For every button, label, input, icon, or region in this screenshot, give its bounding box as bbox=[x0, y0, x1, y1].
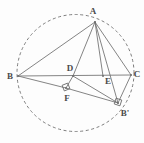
vertex-label-F: F bbox=[64, 94, 70, 103]
circumcircle-layer bbox=[17, 15, 134, 132]
right-angle-mark-layer bbox=[62, 83, 122, 106]
vertex-label-A: A bbox=[90, 7, 97, 16]
segment-A-C bbox=[95, 22, 131, 75]
circumcircle bbox=[17, 15, 134, 132]
segment-F-Bp bbox=[66, 88, 118, 103]
segment-B-A bbox=[18, 22, 95, 76]
vertex-dot-D bbox=[72, 75, 74, 77]
vertex-label-D: D bbox=[67, 64, 74, 73]
vertex-dot-F bbox=[65, 87, 67, 89]
segment-D-F bbox=[66, 76, 73, 88]
vertex-dot-E bbox=[102, 75, 104, 77]
vertex-dot-A bbox=[94, 21, 96, 23]
vertex-label-E: E bbox=[105, 77, 111, 86]
segment-layer bbox=[18, 22, 131, 103]
vertex-dot-C bbox=[130, 74, 132, 76]
segment-A-E bbox=[95, 22, 103, 76]
geometry-figure: ABCDEFB' bbox=[0, 0, 144, 143]
segment-B-F bbox=[18, 76, 66, 88]
vertex-label-B: B bbox=[7, 72, 13, 81]
segment-C-Bp bbox=[118, 75, 131, 103]
vertex-dot-B bbox=[17, 75, 19, 77]
vertex-label-C: C bbox=[134, 70, 141, 79]
vertex-label-Bp: B' bbox=[121, 109, 130, 118]
vertex-dot-Bp bbox=[117, 102, 119, 104]
segment-B-C bbox=[18, 75, 131, 76]
